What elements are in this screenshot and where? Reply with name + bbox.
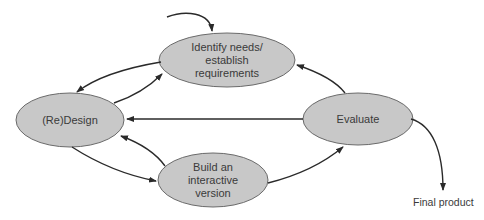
node-evaluate-label: Evaluate [305, 109, 411, 129]
final-product-label: Final product [413, 196, 474, 208]
arrow-build-to-evaluate [268, 147, 343, 183]
arrow-build-to-design [121, 136, 165, 166]
arrow-design-to-build [72, 147, 156, 181]
arrow-design-to-identify [114, 74, 162, 103]
arrow-evaluate-to-final [411, 119, 443, 190]
arrow-identify-to-design [77, 62, 161, 92]
node-identify-label: Identify needs/ establish requirements [165, 35, 289, 85]
node-design-label: (Re)Design [18, 110, 122, 130]
node-build-label: Build an interactive version [160, 155, 266, 205]
arrow-evaluate-to-identify [297, 65, 345, 93]
arrow-start-to-identify [167, 13, 212, 31]
lifecycle-diagram: Identify needs/ establish requirements (… [0, 0, 484, 220]
